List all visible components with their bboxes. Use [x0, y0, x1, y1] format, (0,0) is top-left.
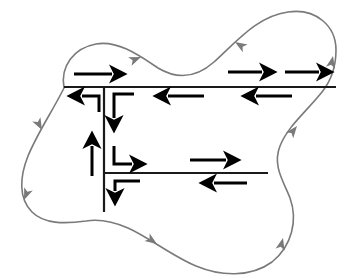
outer-boundary-group	[22, 11, 336, 273]
elbow-arrows-group	[82, 94, 140, 191]
boundary-arrow-bottom-middle	[144, 233, 159, 247]
boundary-arrow-top-left-lobe	[128, 53, 143, 66]
traversal-arrows-group	[74, 72, 319, 183]
outer-boundary-curve	[22, 11, 336, 273]
boundary-arrow-bottom-right	[276, 237, 288, 251]
elbow-arrow-lower-down	[115, 181, 140, 191]
boundary-arrow-top-right-lobe	[233, 38, 248, 52]
cut-lines-group	[64, 87, 336, 212]
boundary-arrowheads-group	[20, 38, 338, 251]
elbow-arrow-upper-left-out	[82, 96, 99, 112]
elbow-arrow-mid-right	[114, 146, 132, 164]
region-diagram	[0, 0, 347, 280]
elbow-arrow-upper-down	[114, 94, 134, 118]
figure-container	[0, 0, 347, 280]
